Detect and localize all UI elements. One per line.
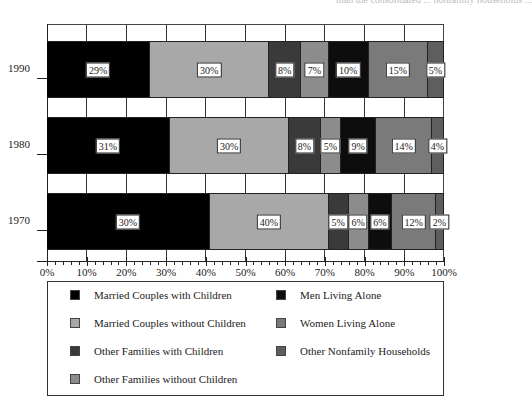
- legend-swatch-icon: [70, 374, 80, 384]
- x-minor-tick: [349, 261, 350, 265]
- bar-segment: 14%: [376, 117, 432, 174]
- x-tick-label: 90%: [394, 266, 414, 278]
- legend: Married Couples with ChildrenMarried Cou…: [47, 281, 444, 396]
- x-minor-tick: [95, 261, 96, 265]
- bar-segment: 4%: [432, 117, 444, 174]
- x-major-tick: [444, 257, 445, 266]
- y-tick: [37, 154, 47, 155]
- bar-segment: 6%: [349, 193, 369, 250]
- cropped-header-text: than the consolidated ... nonfamily hous…: [336, 0, 532, 5]
- segment-value-label: 31%: [96, 138, 120, 153]
- x-minor-tick: [293, 261, 294, 265]
- x-major-tick: [206, 257, 207, 266]
- x-minor-tick: [103, 261, 104, 265]
- x-minor-tick: [150, 261, 151, 265]
- legend-swatch-icon: [276, 346, 286, 356]
- bar-segment: 2%: [436, 193, 444, 250]
- x-minor-tick: [373, 261, 374, 265]
- bar-segment: 7%: [301, 41, 329, 98]
- segment-value-label: 2%: [430, 214, 449, 229]
- x-minor-tick: [238, 261, 239, 265]
- segment-value-label: 5%: [321, 138, 340, 153]
- x-minor-tick: [158, 261, 159, 265]
- x-tick-label: 100%: [431, 266, 457, 278]
- x-major-tick: [325, 257, 326, 266]
- segment-value-label: 29%: [86, 62, 110, 77]
- legend-item: Men Living Alone: [276, 289, 381, 301]
- bar-segment: 15%: [369, 41, 429, 98]
- segment-value-label: 5%: [329, 214, 348, 229]
- y-category-label: 1970: [0, 214, 38, 226]
- x-major-tick: [365, 257, 366, 266]
- x-minor-tick: [420, 261, 421, 265]
- x-tick-label: 10%: [77, 266, 97, 278]
- segment-value-label: 6%: [348, 214, 367, 229]
- legend-label: Other Families without Children: [94, 373, 237, 385]
- bar-segment: 29%: [47, 41, 150, 98]
- legend-label: Married Couples without Children: [94, 317, 246, 329]
- x-minor-tick: [380, 261, 381, 265]
- x-major-tick: [87, 257, 88, 266]
- x-minor-tick: [142, 261, 143, 265]
- x-axis: [37, 261, 445, 262]
- bar-segment: 5%: [321, 117, 341, 174]
- bar-segment: 8%: [289, 117, 321, 174]
- x-major-tick: [166, 257, 167, 266]
- x-minor-tick: [134, 261, 135, 265]
- x-minor-tick: [111, 261, 112, 265]
- x-minor-tick: [309, 261, 310, 265]
- bar-segment: 5%: [329, 193, 349, 250]
- legend-label: Married Couples with Children: [94, 289, 232, 301]
- segment-value-label: 40%: [257, 214, 281, 229]
- legend-item: Other Families without Children: [70, 373, 237, 385]
- x-minor-tick: [396, 261, 397, 265]
- x-minor-tick: [333, 261, 334, 265]
- legend-label: Men Living Alone: [300, 289, 381, 301]
- segment-value-label: 30%: [116, 214, 140, 229]
- segment-value-label: 4%: [428, 138, 447, 153]
- bar-segment: 40%: [210, 193, 329, 250]
- x-minor-tick: [222, 261, 223, 265]
- x-major-tick: [47, 257, 48, 266]
- x-minor-tick: [388, 261, 389, 265]
- x-minor-tick: [436, 261, 437, 265]
- bar-segment: 5%: [428, 41, 444, 98]
- x-tick-label: 40%: [196, 266, 216, 278]
- x-tick-label: 20%: [116, 266, 136, 278]
- x-minor-tick: [182, 261, 183, 265]
- x-minor-tick: [317, 261, 318, 265]
- x-minor-tick: [79, 261, 80, 265]
- bar-segment: 30%: [150, 41, 269, 98]
- bar-1980: 31%30%8%5%9%14%4%: [47, 117, 444, 174]
- segment-value-label: 30%: [197, 62, 221, 77]
- x-major-tick: [126, 257, 127, 266]
- segment-value-label: 8%: [275, 62, 294, 77]
- bar-segment: 6%: [369, 193, 393, 250]
- y-tick: [37, 230, 47, 231]
- segment-value-label: 6%: [370, 214, 389, 229]
- legend-item: Other Nonfamily Households: [276, 345, 430, 357]
- legend-label: Other Nonfamily Households: [300, 345, 430, 357]
- segment-value-label: 7%: [305, 62, 324, 77]
- y-category-label: 1990: [0, 62, 38, 74]
- legend-label: Women Living Alone: [300, 317, 395, 329]
- legend-item: Other Families with Children: [70, 345, 223, 357]
- legend-swatch-icon: [70, 346, 80, 356]
- bar-segment: 30%: [170, 117, 289, 174]
- x-minor-tick: [428, 261, 429, 265]
- x-minor-tick: [230, 261, 231, 265]
- bar-1990: 29%30%8%7%10%15%5%: [47, 41, 444, 98]
- legend-swatch-icon: [276, 318, 286, 328]
- x-minor-tick: [214, 261, 215, 265]
- x-minor-tick: [301, 261, 302, 265]
- legend-label: Other Families with Children: [94, 345, 223, 357]
- x-tick-label: 80%: [355, 266, 375, 278]
- segment-value-label: 14%: [392, 138, 416, 153]
- legend-swatch-icon: [276, 290, 286, 300]
- x-major-tick: [246, 257, 247, 266]
- segment-value-label: 5%: [426, 62, 445, 77]
- segment-value-label: 9%: [348, 138, 367, 153]
- x-minor-tick: [63, 261, 64, 265]
- x-tick-label: 70%: [315, 266, 335, 278]
- legend-swatch-icon: [70, 318, 80, 328]
